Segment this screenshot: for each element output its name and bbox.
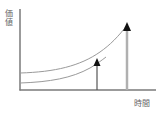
value-time-diagram — [0, 0, 156, 115]
y-axis-label: 価値 — [4, 9, 14, 27]
lower-curve — [20, 57, 106, 83]
large-arrow-head-icon — [123, 22, 131, 31]
upper-curve — [20, 24, 128, 73]
x-axis-label: 時間 — [134, 99, 150, 108]
